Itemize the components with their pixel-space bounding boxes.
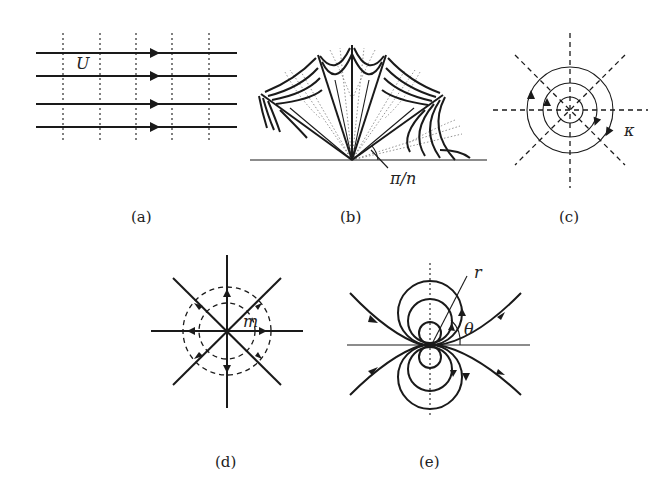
panel-d-source: m (d) [151, 255, 303, 471]
panel-a-uniform-flow: U (a) [36, 33, 237, 226]
caption-b: (b) [340, 208, 361, 226]
source-strength-symbol-m: m [243, 312, 258, 331]
potential-rays [493, 33, 648, 188]
potential-lines [63, 33, 209, 142]
caption-d: (d) [215, 453, 236, 471]
circulation-symbol-kappa: κ [623, 121, 635, 140]
panel-e-dipole: r θ (e) [347, 263, 530, 471]
caption-e: (e) [419, 453, 440, 471]
angle-pointer [371, 150, 388, 168]
panel-c-vortex: κ (c) [493, 33, 648, 226]
panel-b-corner-flow: π/n (b) [250, 45, 487, 226]
angle-symbol-theta: θ [464, 320, 474, 339]
caption-a: (a) [131, 208, 152, 226]
radial-streamlines [151, 255, 303, 408]
angle-arc [372, 146, 378, 160]
radius-symbol-r: r [474, 263, 483, 282]
velocity-symbol-U: U [76, 54, 90, 73]
hyperbolic-streamlines [259, 48, 470, 160]
angle-label-pi-over-n: π/n [389, 169, 416, 188]
flow-figure: U (a) [0, 0, 670, 479]
caption-c: (c) [559, 208, 579, 226]
